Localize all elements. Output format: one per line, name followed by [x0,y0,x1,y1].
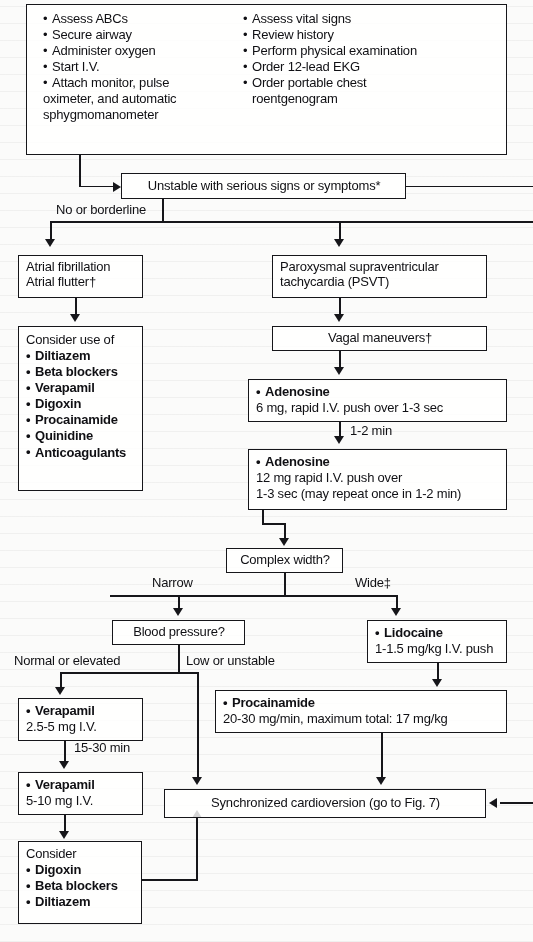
list-item-drug: Digoxin [26,396,136,411]
initial-assessment-box: Assess ABCs Secure airway Administer oxy… [26,4,507,155]
arrowhead-into-lidocaine [391,608,401,616]
adenosine-6mg-box: Adenosine 6 mg, rapid I.V. push over 1-3… [248,379,507,422]
list-item: Review history [243,27,417,42]
edge-label-1-2-min: 1-2 min [350,423,392,438]
consider-use-of-heading: Consider use of [26,332,136,347]
list-item-drug: Digoxin [26,862,135,877]
initial-assessment-right-list: Assess vital signs Review history Perfor… [243,11,417,106]
drug-dose-line-1: 12 mg rapid I.V. push over [256,470,500,485]
connector-complex-split-bar [110,595,397,597]
connector-unstable-right [406,186,533,188]
vagal-maneuvers-box: Vagal maneuvers† [272,326,487,351]
arrowhead-into-procainamide [432,679,442,687]
connector-adenosine12-to-complex [262,523,285,525]
procainamide-list: Procainamide 20-30 mg/min, maximum total… [223,695,500,726]
edge-label-15-30-min: 15-30 min [74,740,130,755]
psvt-box: Paroxysmal supraventricular tachycardia … [272,255,487,298]
connector-left-branch-down [50,221,52,241]
verapamil-1-list: Verapamil 2.5-5 mg I.V. [26,703,136,734]
atrial-fibrillation-box: Atrial fibrillation Atrial flutter† [18,255,143,298]
arrowhead-into-vagal [334,314,344,322]
drug-dose: 20-30 mg/min, maximum total: 17 mg/kg [223,711,500,726]
lidocaine-box: Lidocaine 1-1.5 mg/kg I.V. push [367,620,507,663]
drug-dose: 1-1.5 mg/kg I.V. push [375,641,500,656]
arrowhead-into-complex-width [279,538,289,546]
drug-name: Verapamil [26,703,136,718]
vagal-maneuvers-label: Vagal maneuvers† [328,330,432,345]
atrial-line-2: Atrial flutter† [26,274,136,289]
connector-consider-bottom-up [196,818,198,880]
connector-consider-bottom-right [142,879,198,881]
list-item-drug: Verapamil [26,380,136,395]
drug-name: Adenosine [256,384,500,399]
connector-right-branch-down [339,221,341,241]
procainamide-box: Procainamide 20-30 mg/min, maximum total… [215,690,507,733]
drug-dose-line-2: 1-3 sec (may repeat once in 1-2 min) [256,486,500,501]
lidocaine-list: Lidocaine 1-1.5 mg/kg I.V. push [375,625,500,656]
arrowhead-low-into-cardioversion [192,777,202,785]
connector-verapamil1-to-verapamil2 [64,741,66,763]
arrowhead-into-blood-pressure [173,608,183,616]
list-item-drug: Anticoagulants [26,445,136,460]
arrowhead-into-verapamil-1 [55,687,65,695]
drug-name: Verapamil [26,777,136,792]
verapamil-2point5-5mg-box: Verapamil 2.5-5 mg I.V. [18,698,143,741]
unstable-decision-label: Unstable with serious signs or symptoms* [148,178,381,193]
verapamil-2-list: Verapamil 5-10 mg I.V. [26,777,136,808]
arrowhead-into-consider-bottom [59,831,69,839]
connector-procainamide-to-cardioversion [381,733,383,779]
arrowhead-into-adenosine6 [334,367,344,375]
list-item: Administer oxygen [43,43,176,58]
connector-bp-split-bar [60,672,199,674]
connector-complex-down [284,573,286,597]
arrowhead-into-adenosine12 [334,436,344,444]
adenosine-6mg-list: Adenosine 6 mg, rapid I.V. push over 1-3… [256,384,500,415]
list-item: Assess vital signs [243,11,417,26]
drug-name: Lidocaine [375,625,500,640]
list-item: Assess ABCs [43,11,176,26]
arrowhead-into-cardioversion-right [489,798,497,808]
consider-bottom-heading: Consider [26,846,135,861]
consider-use-of-box: Consider use of Diltiazem Beta blockers … [18,326,143,491]
edge-label-low-or-unstable: Low or unstable [186,653,275,668]
consider-bottom-box: Consider Digoxin Beta blockers Diltiazem [18,841,142,924]
connector-unstable-to-cardioversion [500,802,533,804]
list-item: Start I.V. [43,59,176,74]
blood-pressure-label: Blood pressure? [133,624,225,639]
drug-name: Procainamide [223,695,500,710]
list-item: Order 12-lead EKG [243,59,417,74]
synchronized-cardioversion-label: Synchronized cardioversion (go to Fig. 7… [211,795,440,810]
connector-assessment-right [79,186,115,188]
list-item-continuation: sphygmomanometer [43,107,176,122]
arrowhead-into-verapamil-2 [59,761,69,769]
list-item: Attach monitor, pulse [43,75,176,90]
edge-label-narrow: Narrow [152,575,193,590]
list-item-drug: Beta blockers [26,364,136,379]
list-item-drug: Procainamide [26,412,136,427]
arrowhead-into-psvt [334,239,344,247]
edge-label-no-or-borderline: No or borderline [56,202,146,217]
list-item: Order portable chest [243,75,417,90]
list-item-drug: Diltiazem [26,348,136,363]
arrowhead-procainamide-into-cardioversion [376,777,386,785]
initial-assessment-left-list: Assess ABCs Secure airway Administer oxy… [43,11,176,123]
list-item-continuation: roentgenogram [243,91,417,106]
adenosine-12mg-box: Adenosine 12 mg rapid I.V. push over 1-3… [248,449,507,510]
flowchart-figure: Assess ABCs Secure airway Administer oxy… [0,0,533,942]
blood-pressure-box: Blood pressure? [112,620,245,645]
arrowhead-into-atrial [45,239,55,247]
drug-dose: 2.5-5 mg I.V. [26,719,136,734]
drug-name: Adenosine [256,454,500,469]
consider-use-of-drug-list: Diltiazem Beta blockers Verapamil Digoxi… [26,348,136,460]
complex-width-box: Complex width? [226,548,343,573]
psvt-line-1: Paroxysmal supraventricular [280,259,480,274]
list-item-continuation: oximeter, and automatic [43,91,176,106]
connector-bp-down [178,645,180,674]
list-item: Perform physical examination [243,43,417,58]
connector-unstable-down [162,199,164,223]
list-item-drug: Beta blockers [26,878,135,893]
verapamil-5-10mg-box: Verapamil 5-10 mg I.V. [18,772,143,815]
connector-assessment-down [79,155,81,187]
edge-label-normal-or-elevated: Normal or elevated [14,653,120,668]
unstable-decision-box: Unstable with serious signs or symptoms* [121,173,406,199]
